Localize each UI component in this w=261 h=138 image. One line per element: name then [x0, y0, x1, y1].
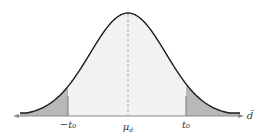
distribution-diagram: −t₀ μd t₀ d̄	[0, 0, 261, 138]
x-axis-label: d̄	[247, 110, 255, 121]
axis-right-arrow-icon	[238, 114, 244, 118]
right-cutoff-label: t₀	[182, 119, 190, 130]
mean-label: μd	[123, 121, 134, 133]
left-cutoff-label: −t₀	[60, 119, 76, 130]
axis-left-arrow-icon	[13, 114, 19, 118]
